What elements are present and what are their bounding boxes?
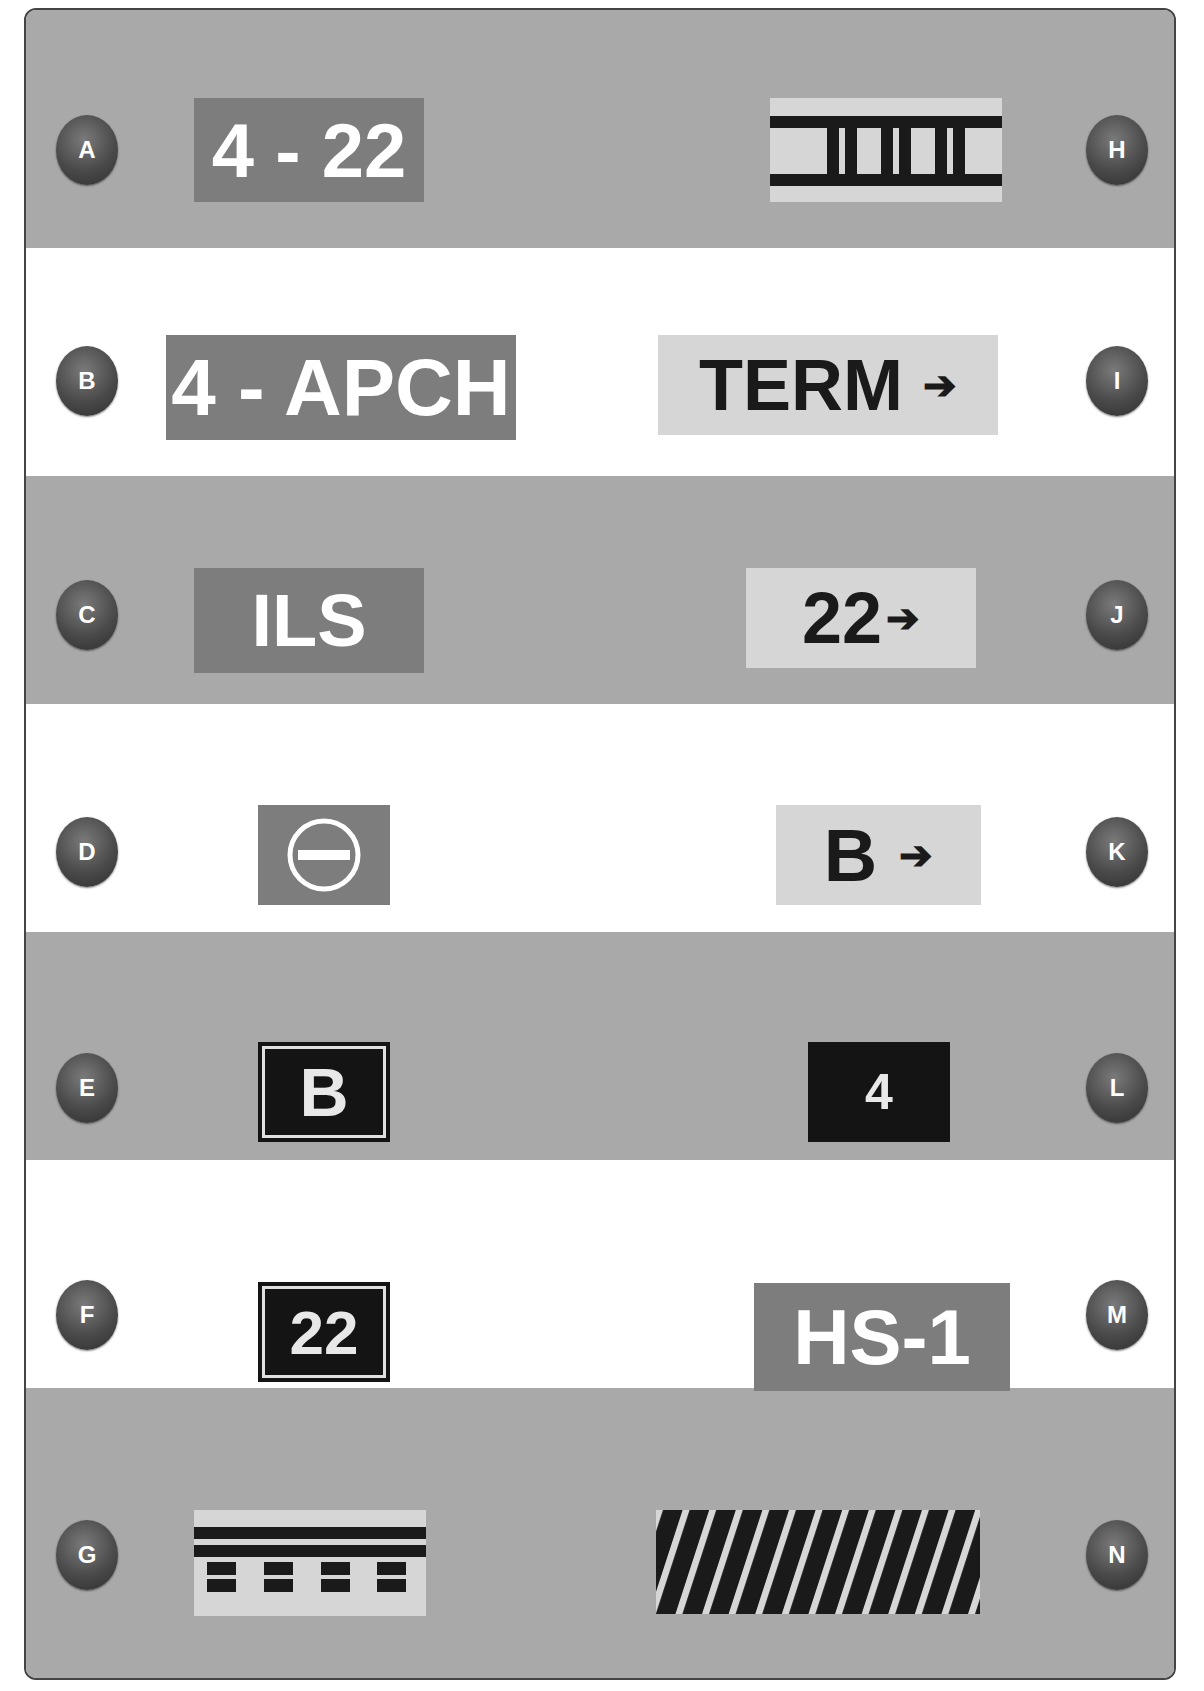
diagonal-stripes-icon	[656, 1510, 980, 1614]
sign-k-label: B	[824, 813, 877, 898]
sign-i-destination: TERM ➔	[658, 335, 998, 435]
arrow-right-icon: ➔	[886, 595, 920, 641]
sign-a-runway-holding: 4 - 22	[194, 98, 424, 202]
sign-k-taxiway-direction: B ➔	[776, 805, 981, 905]
badge-i: I	[1086, 346, 1148, 416]
marking-g-holding-position	[194, 1510, 426, 1616]
badge-g: G	[56, 1520, 118, 1590]
sign-e-label: B	[299, 1053, 348, 1131]
sign-j-label: 22	[802, 577, 882, 659]
sign-e-taxiway-location: B	[258, 1042, 390, 1142]
sign-d-no-entry	[258, 805, 390, 905]
arrow-right-icon: ➔	[899, 832, 933, 878]
badge-f: F	[56, 1280, 118, 1350]
sign-c-ils-critical-area-holding: ILS	[194, 568, 424, 673]
no-entry-icon	[258, 805, 390, 905]
band-row-5	[26, 932, 1174, 1160]
badge-l: L	[1086, 1053, 1148, 1123]
chart-frame: A 4 - 22 H B 4 - APCH TERM ➔ I C ILS 22 …	[24, 8, 1176, 1680]
badge-j: J	[1086, 580, 1148, 650]
ils-critical-area-marking-icon	[770, 98, 1002, 202]
marking-h-ils-critical-area	[770, 98, 1002, 202]
badge-m: M	[1086, 1280, 1148, 1350]
badge-k: K	[1086, 817, 1148, 887]
sign-l-distance-remaining: 4	[808, 1042, 950, 1142]
sign-f-label: 22	[290, 1297, 359, 1368]
badge-c: C	[56, 580, 118, 650]
badge-a: A	[56, 115, 118, 185]
badge-b: B	[56, 346, 118, 416]
badge-e: E	[56, 1053, 118, 1123]
sign-i-label: TERM	[699, 344, 903, 426]
badge-h: H	[1086, 115, 1148, 185]
sign-m-hot-spot: HS-1	[754, 1283, 1010, 1391]
badge-n: N	[1086, 1520, 1148, 1590]
arrow-right-icon: ➔	[923, 362, 957, 408]
sign-f-runway-location: 22	[258, 1282, 390, 1382]
band-row-4	[26, 704, 1174, 932]
sign-j-direction: 22 ➔	[746, 568, 976, 668]
badge-d: D	[56, 817, 118, 887]
marking-n-runway-boundary	[656, 1510, 980, 1614]
sign-b-approach-area-holding: 4 - APCH	[166, 335, 516, 440]
holding-position-marking-icon	[194, 1510, 426, 1616]
